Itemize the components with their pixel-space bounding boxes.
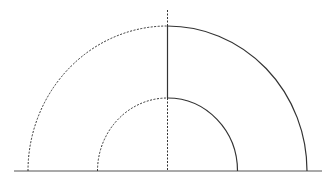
concentric-semicircles-diagram bbox=[0, 0, 336, 183]
outer-arc-right-solid bbox=[168, 26, 308, 171]
outer-arc-left-dashed bbox=[28, 26, 168, 171]
inner-arc-right-solid bbox=[168, 98, 238, 171]
diagram-canvas bbox=[0, 0, 336, 183]
inner-arc-left-dashed bbox=[98, 98, 168, 171]
